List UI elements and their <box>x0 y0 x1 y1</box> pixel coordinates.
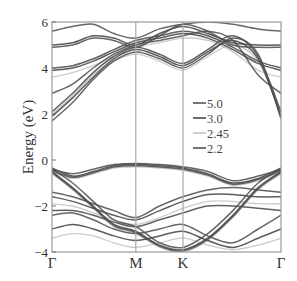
y-tick-label: −2 <box>34 199 48 214</box>
legend-label: 2.45 <box>207 127 229 141</box>
legend-label: 3.0 <box>207 112 223 126</box>
y-tick-label: 2 <box>42 107 49 122</box>
k-point-label: Γ <box>277 255 286 271</box>
y-tick-label: 4 <box>42 61 49 76</box>
k-point-label: Γ <box>48 255 57 271</box>
k-point-label: M <box>129 255 142 271</box>
y-tick-label: 0 <box>42 153 49 168</box>
x-axis-k-labels: ΓMKΓ <box>48 255 286 271</box>
y-axis-ticks: −4−20246 <box>34 15 56 260</box>
legend-label: 2.2 <box>207 142 223 156</box>
y-tick-label: 6 <box>42 15 49 30</box>
legend-label: 5.0 <box>207 97 223 111</box>
y-axis-title: Energy (eV) <box>20 100 37 174</box>
band-curves <box>52 22 281 252</box>
k-point-label: K <box>178 255 189 271</box>
y-tick-label: −4 <box>34 245 48 260</box>
legend: 5.03.02.452.2 <box>190 94 250 156</box>
band-structure-chart: −4−20246 ΓMKΓ Energy (eV) 5.03.02.452.2 <box>0 0 297 281</box>
